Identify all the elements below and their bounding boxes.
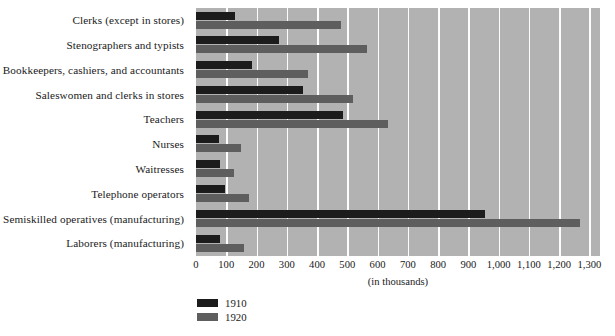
category-label: Bookkeepers, cashiers, and accountants: [0, 58, 190, 83]
legend-label: 1910: [225, 297, 247, 309]
x-axis-ticks: 01002003004005006007008009001,0001,1001,…: [196, 259, 600, 275]
legend-label: 1920: [225, 311, 247, 323]
legend-entry: 1920: [197, 310, 247, 324]
bar-1920: [196, 21, 341, 29]
bar-1920: [196, 244, 244, 252]
chart-legend: 19101920: [197, 296, 247, 324]
category-axis: Clerks (except in stores)Stenographers a…: [0, 8, 190, 256]
bar-1920: [196, 70, 308, 78]
x-tick-label: 1,100: [517, 259, 541, 270]
bar-chart-figure: Clerks (except in stores)Stenographers a…: [0, 0, 615, 336]
category-label: Waitresses: [0, 157, 190, 182]
bar-1920: [196, 45, 367, 53]
bar-group: [196, 182, 600, 207]
x-tick-label: 0: [193, 259, 198, 270]
bar-1910: [196, 185, 225, 193]
x-tick-label: 1,200: [547, 259, 571, 270]
x-tick-label: 400: [309, 259, 325, 270]
x-tick-label: 1,300: [577, 259, 601, 270]
bar-1920: [196, 194, 249, 202]
bar-1910: [196, 111, 343, 119]
category-label: Telephone operators: [0, 182, 190, 207]
plot-area: [196, 8, 600, 256]
category-label: Nurses: [0, 132, 190, 157]
x-tick-label: 800: [430, 259, 446, 270]
bar-1910: [196, 86, 303, 94]
bar-1910: [196, 12, 235, 20]
x-tick-label: 600: [370, 259, 386, 270]
x-tick-label: 900: [460, 259, 476, 270]
bar-1920: [196, 219, 580, 227]
bar-group: [196, 107, 600, 132]
legend-swatch-1910: [197, 299, 218, 307]
bar-1910: [196, 36, 279, 44]
bar-1920: [196, 169, 234, 177]
bar-1920: [196, 144, 241, 152]
category-label: Saleswomen and clerks in stores: [0, 82, 190, 107]
bar-group: [196, 58, 600, 83]
bar-1910: [196, 135, 219, 143]
x-tick-label: 300: [279, 259, 295, 270]
x-axis-title: (in thousands): [196, 276, 600, 287]
bar-1910: [196, 235, 220, 243]
category-label: Stenographers and typists: [0, 33, 190, 58]
bar-1910: [196, 210, 485, 218]
category-label: Teachers: [0, 107, 190, 132]
legend-entry: 1910: [197, 296, 247, 310]
category-label: Semiskilled operatives (manufacturing): [0, 206, 190, 231]
bar-group: [196, 206, 600, 231]
bar-group: [196, 82, 600, 107]
bar-group: [196, 157, 600, 182]
x-tick-label: 100: [218, 259, 234, 270]
bar-group: [196, 132, 600, 157]
bar-1910: [196, 61, 252, 69]
bars-layer: [196, 8, 600, 256]
bar-1920: [196, 120, 388, 128]
bar-1920: [196, 95, 353, 103]
x-tick-label: 500: [339, 259, 355, 270]
x-tick-label: 700: [400, 259, 416, 270]
bar-1910: [196, 160, 220, 168]
bar-group: [196, 231, 600, 256]
legend-swatch-1920: [197, 313, 218, 321]
category-label: Laborers (manufacturing): [0, 231, 190, 256]
category-label: Clerks (except in stores): [0, 8, 190, 33]
bar-group: [196, 33, 600, 58]
x-tick-label: 200: [249, 259, 265, 270]
bar-group: [196, 8, 600, 33]
x-tick-label: 1,000: [487, 259, 511, 270]
